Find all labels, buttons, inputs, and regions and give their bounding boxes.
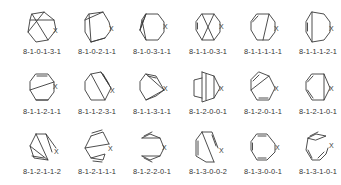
heteroatom-x-label: X <box>53 27 58 34</box>
heteroatom-x-label: X <box>274 25 279 32</box>
structure-drawing: X <box>77 8 117 46</box>
structure-drawing: X <box>298 8 338 46</box>
structure-cell: X8-1-2-0-1-1 <box>235 64 291 124</box>
heteroatom-x-label: X <box>329 25 334 32</box>
heteroatom-x-label: X <box>219 85 224 92</box>
structure-drawing: X <box>298 128 338 166</box>
structure-drawing: X <box>22 8 62 46</box>
structure-label: 8-1-0-3-1-1 <box>120 47 184 56</box>
structure-drawing: X <box>132 8 172 46</box>
structure-drawing: X <box>188 68 228 106</box>
structure-drawing: X <box>243 8 283 46</box>
structure-cell: X8-1-2-1-1-1 <box>69 124 125 184</box>
structure-cell: X8-1-3-1-0-1 <box>290 124 341 184</box>
structure-cell: X8-1-1-1-2-1 <box>290 4 341 64</box>
structure-cell: X8-1-1-1-1-1 <box>235 4 291 64</box>
heteroatom-x-label: X <box>329 85 334 92</box>
structure-cell: X8-1-3-0-0-2 <box>180 124 236 184</box>
structure-drawing: X <box>298 68 338 106</box>
heteroatom-x-label: X <box>109 25 114 32</box>
structure-drawing: X <box>22 128 62 166</box>
structure-cell: X8-1-2-1-0-1 <box>290 64 341 124</box>
structure-drawing: X <box>188 8 228 46</box>
structure-drawing: X <box>243 128 283 166</box>
structure-label: 8-1-2-1-0-1 <box>286 107 341 116</box>
structure-cell: X8-1-1-2-1-1 <box>14 64 70 124</box>
structure-label: 8-1-3-1-0-1 <box>286 167 341 176</box>
structure-drawing: X <box>243 68 283 106</box>
structure-drawing: X <box>132 68 172 106</box>
structure-cell: X8-1-0-3-1-1 <box>124 4 180 64</box>
heteroatom-x-label: X <box>275 144 280 151</box>
structure-cell: X8-1-2-0-0-1 <box>180 64 236 124</box>
heteroatom-x-label: X <box>110 87 115 94</box>
structure-drawing: X <box>22 68 62 106</box>
structure-drawing: X <box>77 128 117 166</box>
structure-label: 8-1-1-3-1-1 <box>120 107 184 116</box>
structure-cell: X8-1-0-2-1-1 <box>69 4 125 64</box>
structure-drawing: X <box>77 68 117 106</box>
structure-grid: X8-1-0-1-3-1X8-1-0-2-1-1X8-1-0-3-1-1X8-1… <box>0 0 341 185</box>
structure-cell: X8-1-1-3-1-1 <box>124 64 180 124</box>
heteroatom-x-label: X <box>329 142 334 149</box>
heteroatom-x-label: X <box>219 23 224 30</box>
heteroatom-x-label: X <box>108 145 113 152</box>
structure-drawing: X <box>132 128 172 166</box>
heteroatom-x-label: X <box>163 85 168 92</box>
heteroatom-x-label: X <box>53 83 58 90</box>
structure-drawing: X <box>188 128 228 166</box>
structure-cell: X8-1-1-2-3-1 <box>69 64 125 124</box>
heteroatom-x-label: X <box>219 147 224 154</box>
structure-label: 8-1-2-2-0-1 <box>120 167 184 176</box>
structure-cell: X8-1-2-2-0-1 <box>124 124 180 184</box>
structure-cell: X8-1-2-1-1-2 <box>14 124 70 184</box>
structure-label: 8-1-1-1-2-1 <box>286 47 341 56</box>
structure-cell: X8-1-0-1-3-1 <box>14 4 70 64</box>
heteroatom-x-label: X <box>162 144 167 151</box>
heteroatom-x-label: X <box>163 23 168 30</box>
heteroatom-x-label: X <box>274 85 279 92</box>
structure-cell: X8-1-1-0-3-1 <box>180 4 236 64</box>
structure-cell: X8-1-3-0-0-1 <box>235 124 291 184</box>
heteroatom-x-label: X <box>54 148 59 155</box>
